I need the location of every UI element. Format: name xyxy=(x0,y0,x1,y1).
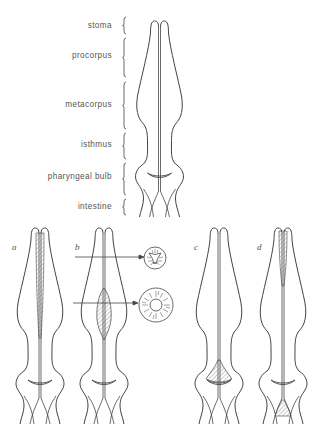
main-pharynx xyxy=(136,21,184,217)
panel-c-pharynx xyxy=(195,228,243,424)
panel-d-pharynx xyxy=(259,228,307,424)
panel-label-c: c xyxy=(194,242,198,252)
label-pharyngeal-bulb: pharyngeal bulb xyxy=(2,172,112,181)
panel-label-d: d xyxy=(257,242,262,252)
label-isthmus: isthmus xyxy=(2,140,112,149)
panel-label-a: a xyxy=(12,242,17,252)
label-stoma: stoma xyxy=(2,21,112,30)
panel-label-b: b xyxy=(75,242,80,252)
metacorpus-cross-section xyxy=(139,288,173,322)
region-brackets xyxy=(123,17,127,215)
label-metacorpus: metacorpus xyxy=(2,100,112,109)
procorpus-cross-section xyxy=(144,247,166,269)
panel-a-pharynx xyxy=(16,228,64,424)
label-procorpus: procorpus xyxy=(2,51,112,60)
label-intestine: intestine xyxy=(2,202,112,211)
pharynx-diagram xyxy=(0,0,321,428)
